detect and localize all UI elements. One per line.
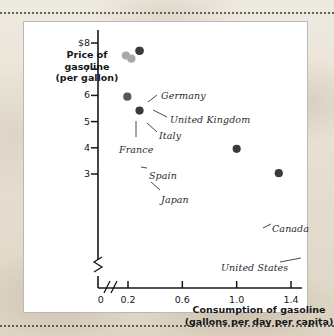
point-label-canada: Canada [272, 223, 309, 234]
leader-line-united-kingdom [153, 110, 167, 117]
x-tick-label-3: 1.0 [217, 294, 257, 305]
x-axis-ticks [128, 281, 291, 288]
chart-panel: Price of gasoline (per gallon) Consumpti… [23, 21, 308, 313]
y-tick-label-5: 3 [50, 168, 90, 179]
leader-line-germany [148, 95, 157, 102]
leader-line-japan [151, 182, 160, 190]
point-label-united-states: United States [221, 262, 288, 273]
y-tick-label-1: 7 [50, 63, 90, 74]
x-tick-label-2: 0.6 [162, 294, 202, 305]
point-label-germany: Germany [161, 90, 206, 101]
x-tick-label-4: 1.4 [271, 294, 311, 305]
point-label-japan: Japan [161, 194, 189, 205]
data-point-united-kingdom [135, 47, 143, 55]
point-label-italy: Italy [159, 130, 181, 141]
point-label-spain: Spain [149, 170, 177, 181]
x-axis-title: Consumption of gasoline (gallons per day… [174, 304, 334, 327]
data-point-markers [122, 47, 283, 178]
leader-line-canada [263, 224, 271, 228]
point-label-united-kingdom: United Kingdom [170, 114, 250, 125]
data-point-united-states [275, 169, 283, 177]
dotted-rule-top [0, 12, 334, 14]
y-axis-break-mark [94, 257, 102, 272]
y-tick-label-4: 4 [50, 142, 90, 153]
y-tick-label-3: 5 [50, 116, 90, 127]
data-point-spain [123, 93, 131, 101]
data-point-canada [233, 145, 241, 153]
x-tick-label-1: 0.2 [108, 294, 148, 305]
x-axis-break-mark [104, 281, 117, 293]
leader-line-italy [147, 123, 157, 132]
y-tick-label-0: $8 [50, 37, 90, 48]
data-point-japan [135, 106, 143, 114]
leader-line-spain [141, 167, 147, 168]
point-label-france: France [119, 144, 153, 155]
y-tick-label-2: 6 [50, 89, 90, 100]
